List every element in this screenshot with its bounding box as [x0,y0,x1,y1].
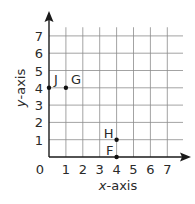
point-label-h: H [104,126,114,141]
y-tick-label: 6 [35,46,43,61]
y-tick-label: 1 [35,133,43,148]
y-tick-label: 3 [35,98,43,113]
point-label-j: J [53,72,58,87]
x-tick-label: 2 [79,162,87,177]
y-tick-label: 2 [35,115,43,130]
x-tick-label: 5 [129,162,137,177]
x-tick-label: 1 [62,162,70,177]
grid-lines [49,27,183,157]
x-tick-label: 4 [112,162,120,177]
x-tick-label: 0 [36,162,44,177]
y-tick-labels: 1234567 [35,29,43,148]
point-g [64,86,68,90]
y-tick-label: 5 [35,64,43,79]
x-tick-labels: 01234567 [36,162,172,177]
point-j [47,86,51,90]
coordinate-grid: 01234567 1234567 JGHF x-axis y-axis [0,0,195,204]
point-f [114,155,118,159]
x-tick-label: 7 [163,162,171,177]
x-tick-label: 6 [146,162,154,177]
y-axis-label: y-axis [13,69,28,109]
x-tick-label: 3 [96,162,104,177]
y-tick-label: 7 [35,29,43,44]
x-axis-label: x-axis [98,178,138,193]
y-tick-label: 4 [35,81,43,96]
point-label-g: G [71,72,81,87]
point-label-f: F [106,143,113,158]
point-h [114,138,118,142]
